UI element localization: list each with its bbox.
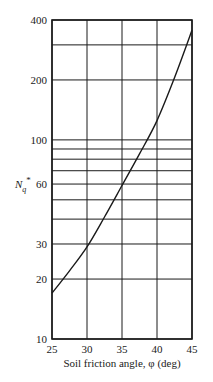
x-tick-label: 25 — [47, 343, 59, 355]
y-axis-label: Nq* — [14, 175, 31, 194]
y-tick-label: 400 — [31, 14, 48, 26]
x-tick-label: 35 — [117, 343, 129, 355]
x-tick-label: 45 — [187, 343, 199, 355]
y-tick-label: 60 — [36, 178, 48, 190]
y-tick-label: 100 — [31, 134, 48, 146]
grid-lines — [52, 20, 192, 339]
x-axis-tick-labels: 2530354045 — [47, 343, 199, 355]
nq-chart: 10203060100200400 2530354045 Nq* Soil fr… — [0, 0, 213, 382]
y-tick-label: 20 — [36, 273, 48, 285]
x-axis-label: Soil friction angle, φ (deg) — [63, 357, 181, 370]
x-tick-label: 40 — [152, 343, 164, 355]
y-tick-label: 30 — [36, 238, 48, 250]
x-tick-label: 30 — [82, 343, 94, 355]
y-tick-label: 200 — [31, 74, 48, 86]
y-axis-tick-labels: 10203060100200400 — [31, 14, 48, 345]
